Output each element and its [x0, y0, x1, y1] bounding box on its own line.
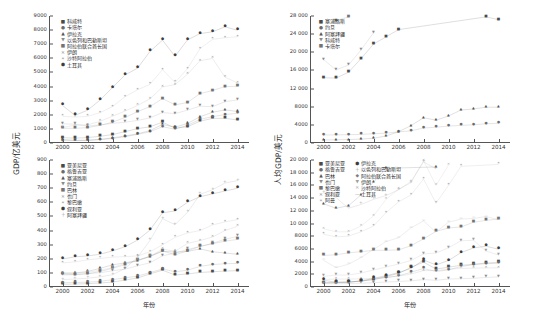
x-axis-tick-label: 2004 [366, 142, 380, 151]
data-point: ✶ [60, 260, 65, 265]
data-point: ● [135, 274, 140, 279]
data-point: ● [371, 131, 376, 136]
data-point: ● [110, 277, 115, 282]
data-point: ▼ [359, 281, 364, 286]
data-point: ✕ [160, 84, 165, 89]
data-point: ⬢ [110, 85, 115, 90]
data-point: ▲ [210, 110, 215, 115]
y-axis-tick-mark [50, 272, 53, 273]
legend-marker-icon: ▼ [60, 38, 66, 43]
x-axis-tick-mark [138, 283, 139, 286]
y-axis-tick-mark [50, 258, 53, 259]
data-point: ● [235, 261, 240, 266]
y-axis-tick-mark [50, 16, 53, 17]
y-axis-tick-mark [50, 44, 53, 45]
data-point: ▲ [446, 114, 451, 119]
data-point: ✕ [98, 268, 103, 273]
legend-item[interactable]: ⬢土耳其 [60, 62, 107, 68]
legend-column: ■亚美尼亚●格鲁吉亚▲巴林▼也门■黎巴嫩✕叙利亚✶阿曼 [318, 161, 345, 204]
data-point: ✕ [484, 265, 489, 270]
data-point: ● [160, 266, 165, 271]
data-point: ● [471, 262, 476, 267]
data-point: ▼ [110, 268, 115, 273]
data-point: ▼ [321, 57, 326, 62]
data-point: ⬢ [198, 31, 203, 36]
data-point: ■ [73, 282, 78, 287]
legend-item[interactable]: ■卡塔尔 [318, 44, 345, 50]
data-point: ● [334, 132, 339, 137]
legend-marker-icon: ■ [60, 188, 66, 193]
data-point: ■ [185, 100, 190, 105]
data-point: ＋ [98, 274, 103, 279]
data-point: ■ [484, 14, 489, 19]
y-axis-tick-mark [50, 128, 53, 129]
data-point: ▼ [85, 271, 90, 276]
data-point: ✕ [346, 277, 351, 282]
x-axis-tick-label: 2002 [80, 286, 94, 295]
legend-bottom-left: ■亚美尼亚●格鲁吉亚▲塞浦路斯▼约旦■巴林✕也门✶黎巴嫩⬢叙利亚＋阿塞拜疆 [60, 163, 87, 219]
legend-marker-icon: ■ [318, 162, 324, 167]
data-point: ✕ [421, 268, 426, 273]
data-point: ✕ [371, 213, 376, 218]
data-point: ✕ [459, 266, 464, 271]
x-axis-tick-label: 2008 [155, 142, 169, 151]
x-axis-tick-label: 2002 [341, 142, 355, 151]
data-point: ✕ [85, 122, 90, 127]
data-point: ⬢ [484, 244, 489, 249]
data-point: ■ [110, 266, 115, 271]
data-point: ● [371, 277, 376, 282]
x-axis-tick-label: 2006 [391, 286, 405, 295]
data-point: ● [421, 266, 426, 271]
data-point: ■ [98, 281, 103, 286]
legend-item-label: 土耳其 [360, 191, 376, 199]
data-point: ✕ [198, 58, 203, 63]
data-point: ■ [434, 229, 439, 234]
legend-item[interactable]: ✶阿曼 [318, 198, 345, 204]
data-point: ＋ [210, 187, 215, 192]
y-axis-tick-mark [50, 114, 53, 115]
data-point: ■ [185, 271, 190, 276]
data-point: ■ [459, 263, 464, 268]
data-point: ■ [60, 272, 65, 277]
data-point: ■ [371, 42, 376, 47]
data-point: ✕ [148, 254, 153, 259]
y-axis-tick-mark [50, 287, 53, 288]
data-point: ▼ [421, 251, 426, 256]
data-point: ■ [434, 267, 439, 272]
x-axis-tick-label: 2004 [105, 142, 119, 151]
data-point: ✶ [198, 228, 203, 233]
data-point: ■ [471, 220, 476, 225]
data-point: ■ [446, 225, 451, 230]
y-axis-tick-mark [50, 58, 53, 59]
x-axis-tick-label: 2012 [466, 142, 480, 151]
data-point: ⬢ [123, 72, 128, 77]
x-axis-tick-label: 2012 [205, 286, 219, 295]
data-point: ✶ [135, 87, 140, 92]
data-point: ✕ [321, 277, 326, 282]
data-point: ● [173, 269, 178, 274]
legend-item-label: 阿塞拜疆 [66, 212, 87, 220]
data-point: ● [484, 261, 489, 266]
x-axis-tick-mark [399, 139, 400, 142]
data-point: ▼ [235, 234, 240, 239]
y-axis-tick-mark [50, 86, 53, 87]
x-axis-tick-label: 2008 [416, 286, 430, 295]
y-axis-tick-label: 800 [37, 172, 50, 177]
data-point: ✕ [371, 276, 376, 281]
x-axis-label-left: 年份 [143, 300, 155, 309]
y-axis-tick-mark [50, 188, 53, 189]
data-point: ✶ [421, 177, 426, 182]
x-axis-tick-label: 2012 [466, 286, 480, 295]
data-point: ＋ [135, 255, 140, 260]
legend-marker-icon: ⬢ [60, 63, 66, 68]
legend-marker-icon: ▲ [318, 174, 324, 179]
data-point: ■ [496, 17, 501, 22]
legend-item[interactable]: —土耳其 [354, 192, 401, 198]
y-axis-tick-mark [311, 124, 314, 125]
data-point: ▲ [98, 137, 103, 142]
data-point: ✕ [135, 103, 140, 108]
data-point: ■ [110, 132, 115, 137]
legend-item[interactable]: ＋阿塞拜疆 [60, 213, 87, 219]
data-point: ● [434, 269, 439, 274]
data-point: ▼ [334, 281, 339, 286]
